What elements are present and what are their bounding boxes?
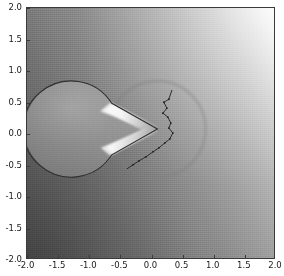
x-tick (214, 255, 215, 258)
y-tick (27, 229, 30, 230)
x-tick-label: 0.5 (175, 261, 189, 270)
y-tick-label: 2.0 (0, 3, 22, 12)
x-tick (183, 255, 184, 258)
y-tick (27, 71, 30, 72)
y-tick-label: -1.0 (0, 192, 22, 201)
plot-axes (26, 7, 275, 259)
obstacle-disc (27, 81, 157, 177)
x-tick (152, 255, 153, 258)
y-tick (27, 134, 30, 135)
x-tick (89, 255, 90, 258)
x-tick-label: -1.5 (49, 261, 66, 270)
x-tick-label: -1.0 (80, 261, 97, 270)
y-tick-label: -2.0 (0, 255, 22, 264)
obstacle-overlay (27, 8, 274, 258)
y-tick (27, 103, 30, 104)
x-tick (58, 255, 59, 258)
x-tick (245, 255, 246, 258)
y-tick-label: 1.0 (0, 66, 22, 75)
x-tick-label: 1.0 (206, 261, 220, 270)
y-tick-label: 1.5 (0, 34, 22, 43)
x-tick (27, 255, 28, 258)
x-tick (120, 255, 121, 258)
y-tick (27, 8, 30, 9)
y-tick (27, 197, 30, 198)
y-tick-label: 0.5 (0, 97, 22, 106)
y-tick (27, 40, 30, 41)
x-tick-label: 0.0 (144, 261, 158, 270)
y-tick-label: 0.0 (0, 129, 22, 138)
x-tick-label: 1.5 (237, 261, 251, 270)
y-tick-label: -0.5 (0, 160, 22, 169)
x-tick-label: 2.0 (268, 261, 282, 270)
x-tick-label: -0.5 (111, 261, 128, 270)
figure-canvas: -2.0-1.5-1.0-0.50.00.51.01.52.0 -2.0-1.5… (0, 0, 284, 276)
y-tick (27, 166, 30, 167)
y-tick-label: -1.5 (0, 223, 22, 232)
